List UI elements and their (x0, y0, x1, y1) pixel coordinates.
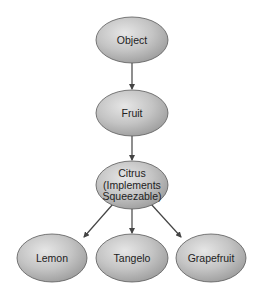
edge-citrus-to-grapefruit (151, 204, 181, 237)
node-grapefruit: Grapefruit (176, 234, 246, 282)
edge-citrus-to-lemon (84, 204, 113, 237)
class-hierarchy-diagram: ObjectFruitCitrus(ImplementsSqueezable)L… (0, 0, 259, 297)
node-label: Object (117, 34, 147, 46)
node-label: Tangelo (114, 252, 151, 264)
edges (84, 63, 181, 237)
node-label: Lemon (36, 252, 68, 264)
node-tangelo: Tangelo (96, 234, 168, 282)
node-label: Grapefruit (188, 252, 235, 264)
node-label: (Implements (103, 179, 161, 191)
node-lemon: Lemon (17, 234, 87, 282)
node-label: Squeezable) (103, 190, 162, 202)
node-citrus: Citrus(ImplementsSqueezable) (96, 161, 168, 209)
node-label: Citrus (118, 167, 145, 179)
node-label: Fruit (122, 107, 143, 119)
node-object: Object (96, 17, 168, 63)
node-fruit: Fruit (96, 90, 168, 136)
